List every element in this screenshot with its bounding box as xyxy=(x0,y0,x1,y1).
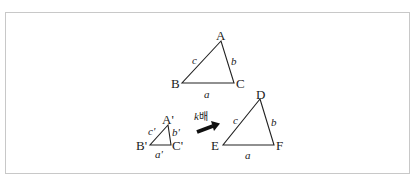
triangle-abc: A B C a b c xyxy=(171,28,245,100)
vertex-d-label: D xyxy=(256,87,265,102)
side-c-def-label: c xyxy=(233,114,238,126)
side-a-def-label: a xyxy=(245,149,251,161)
scale-arrow: k배 xyxy=(194,110,220,132)
triangle-a-prime-b-prime-c-prime: A' B' C' a' b' c' xyxy=(136,112,183,160)
vertex-e-label: E xyxy=(211,138,219,153)
side-b-def-label: b xyxy=(271,116,277,128)
side-b-prime-label: b' xyxy=(172,126,181,138)
vertex-b-prime-label: B' xyxy=(136,138,147,153)
scale-factor-suffix: 배 xyxy=(199,111,208,122)
side-b-label: b xyxy=(231,55,237,67)
svg-text:k배: k배 xyxy=(194,110,208,122)
vertex-b-label: B xyxy=(171,76,180,91)
side-c-label: c xyxy=(192,54,197,66)
vertex-c-label: C xyxy=(236,76,245,91)
vertex-a-label: A xyxy=(216,28,226,43)
vertex-a-prime-label: A' xyxy=(162,112,174,127)
side-a-prime-label: a' xyxy=(155,148,164,160)
side-a-label: a xyxy=(204,88,210,100)
arrow-shaft xyxy=(197,126,213,132)
vertex-f-label: F xyxy=(276,138,283,153)
similar-triangles-diagram: A B C a b c A' B' C' a' b' c' k배 D E F a… xyxy=(0,0,415,181)
side-c-prime-label: c' xyxy=(148,125,156,137)
triangle-def: D E F a b c xyxy=(211,87,283,161)
vertex-c-prime-label: C' xyxy=(172,138,183,153)
